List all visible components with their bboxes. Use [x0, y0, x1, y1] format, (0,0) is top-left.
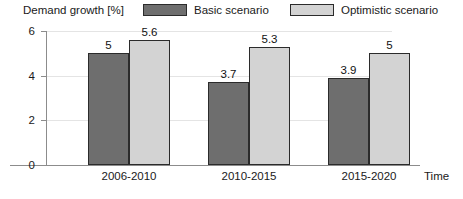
chart-header: Demand growth [%] Basic scenario Optimis… — [0, 0, 463, 26]
bar-optimistic-scenario — [369, 53, 410, 165]
y-axis-title: Demand growth [%] — [23, 4, 124, 16]
y-axis-tick — [41, 31, 47, 32]
bar-column: 3.9 — [328, 31, 369, 165]
x-axis-title: Time — [424, 170, 449, 182]
y-axis-tick-label: 0 — [5, 159, 35, 171]
bar-optimistic-scenario — [129, 40, 170, 165]
bar-column: 5.6 — [129, 31, 170, 165]
bar-column: 5.3 — [249, 31, 290, 165]
bar-basic-scenario — [88, 53, 129, 165]
y-axis-line — [46, 31, 47, 165]
x-axis-line — [10, 165, 420, 166]
bar-group: 3.75.3 — [208, 31, 290, 165]
plot-area: 55.63.75.33.95 — [47, 31, 392, 165]
bar-value-label: 5 — [369, 39, 410, 51]
legend-item-basic-scenario: Basic scenario — [143, 4, 269, 16]
x-axis-category-label: 2015-2020 — [342, 170, 397, 182]
y-axis-tick-label: 2 — [5, 114, 35, 126]
bar-column: 5 — [88, 31, 129, 165]
y-axis-tick — [41, 120, 47, 121]
bar-value-label: 5 — [88, 39, 129, 51]
y-axis-tick-label: 6 — [5, 25, 35, 37]
x-axis-category-label: 2006-2010 — [102, 170, 157, 182]
bar-basic-scenario — [208, 82, 249, 165]
y-axis-tick-label: 4 — [5, 70, 35, 82]
bar-group: 3.95 — [328, 31, 410, 165]
bar-optimistic-scenario — [249, 47, 290, 165]
legend-swatch-optimistic-scenario — [290, 4, 334, 16]
bar-value-label: 3.9 — [328, 64, 369, 76]
legend-item-optimistic-scenario: Optimistic scenario — [290, 4, 438, 16]
x-axis-category-label: 2010-2015 — [222, 170, 277, 182]
bar-column: 5 — [369, 31, 410, 165]
legend-label-basic-scenario: Basic scenario — [194, 4, 269, 16]
bar-chart: Demand growth [%] Basic scenario Optimis… — [0, 0, 463, 199]
bar-value-label: 5.3 — [249, 33, 290, 45]
legend-swatch-basic-scenario — [143, 4, 187, 16]
legend-label-optimistic-scenario: Optimistic scenario — [341, 4, 438, 16]
y-axis-tick — [41, 165, 47, 166]
y-axis-tick — [41, 76, 47, 77]
bar-basic-scenario — [328, 78, 369, 165]
bar-column: 3.7 — [208, 31, 249, 165]
bar-group: 55.6 — [88, 31, 170, 165]
bar-value-label: 3.7 — [208, 68, 249, 80]
bar-value-label: 5.6 — [129, 26, 170, 38]
